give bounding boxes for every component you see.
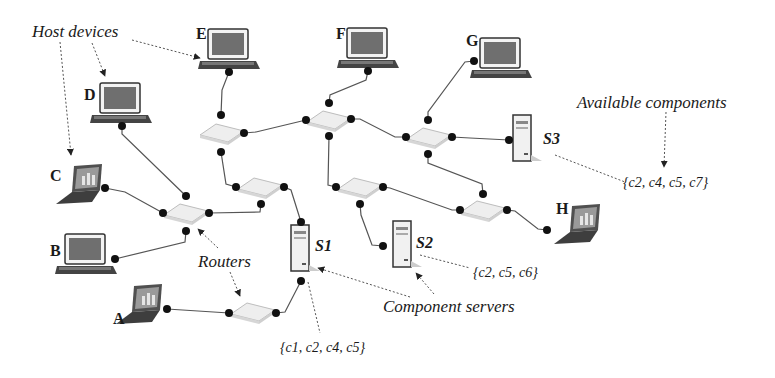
router-r2 xyxy=(200,124,244,145)
host-d-label: D xyxy=(84,86,96,104)
component-servers-label: Component servers xyxy=(383,297,515,317)
link-c-r1 xyxy=(105,188,163,213)
s1-components: {c1, c2, c4, c5} xyxy=(280,340,365,356)
host-f-label: F xyxy=(336,25,346,43)
router-r3 xyxy=(307,111,351,132)
host-e-desktop-icon xyxy=(198,29,260,69)
available-components-label: Available components xyxy=(577,93,727,113)
host-g-desktop-icon xyxy=(470,38,532,78)
leader-s1-set xyxy=(308,282,320,333)
host-c-laptop-icon xyxy=(56,164,102,204)
link-d-r1 xyxy=(122,126,186,196)
router-r6 xyxy=(338,178,382,199)
router-r1 xyxy=(164,204,208,225)
host-e-label: E xyxy=(196,25,207,43)
routers-label: Routers xyxy=(198,252,251,272)
link-r3-r6 xyxy=(328,136,336,187)
host-d-desktop-icon xyxy=(90,83,152,123)
link-r2-r3 xyxy=(244,120,306,133)
server-s1-label: S1 xyxy=(315,237,332,255)
arrow-host-to-c xyxy=(60,42,71,155)
s2-components: {c2, c5, c6} xyxy=(473,265,538,281)
link-r8-s1 xyxy=(276,281,301,313)
link-r5-s1 xyxy=(284,187,301,222)
link-g-r4 xyxy=(428,61,474,120)
link-r4-r7 xyxy=(428,154,483,194)
arrow-host-to-e xyxy=(132,40,200,58)
router-r5 xyxy=(238,178,282,199)
arrow-routers-to-r8 xyxy=(230,272,240,296)
link-r3-r4 xyxy=(351,119,406,137)
router-r4 xyxy=(407,128,451,149)
link-r1-r5 xyxy=(209,204,261,213)
server-s2-label: S2 xyxy=(416,234,433,252)
host-g-label: G xyxy=(466,32,478,50)
host-f-desktop-icon xyxy=(337,28,399,68)
link-r6-s2 xyxy=(360,204,383,246)
link-r4-s3 xyxy=(452,137,509,140)
link-r6-r7 xyxy=(383,187,460,210)
s3-components: {c2, c4, c5, c7} xyxy=(623,175,708,191)
link-b-r1 xyxy=(115,231,186,259)
host-devices-label: Host devices xyxy=(32,22,118,42)
link-e-r2 xyxy=(221,72,229,115)
arrow-comp-to-s2 xyxy=(416,273,434,294)
host-a-label: A xyxy=(113,310,125,328)
link-f-r3 xyxy=(329,71,368,103)
host-b-label: B xyxy=(50,242,61,260)
host-b-desktop-icon xyxy=(55,234,117,274)
server-s3-label: S3 xyxy=(543,130,560,148)
link-a-r8 xyxy=(167,309,229,313)
server-s3-icon xyxy=(513,115,542,161)
host-c-label: C xyxy=(50,167,62,185)
router-r8 xyxy=(231,303,275,324)
arrow-comp-to-s1 xyxy=(318,268,410,297)
router-r7 xyxy=(461,201,505,222)
routers xyxy=(164,111,505,324)
leader-s3-set xyxy=(555,155,625,182)
host-h-label: H xyxy=(556,200,568,218)
link-r2-r5 xyxy=(221,152,236,187)
leader-s2-set xyxy=(420,255,470,268)
arrow-routers-to-r1 xyxy=(198,229,218,248)
arrow-host-to-d xyxy=(92,43,105,76)
arrow-avail-to-set xyxy=(664,112,666,167)
link-r7-h xyxy=(507,210,547,230)
